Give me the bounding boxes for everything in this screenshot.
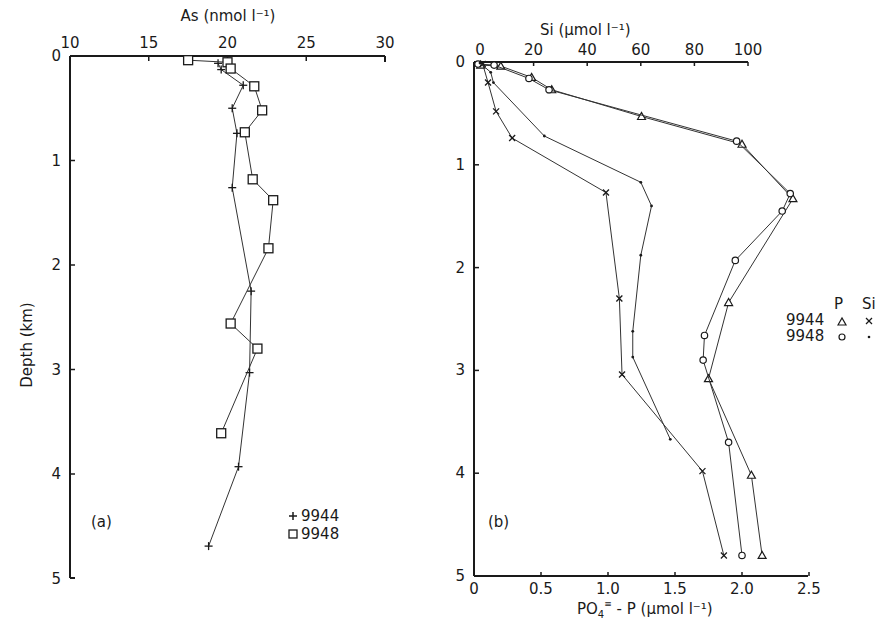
svg-text:20: 20	[524, 41, 543, 59]
svg-text:20: 20	[218, 34, 237, 52]
svg-text:10: 10	[60, 34, 79, 52]
svg-text:40: 40	[578, 41, 597, 59]
legend-b: P Si 9944 9948	[786, 295, 876, 345]
panel-b: Si (μmol l⁻¹) 020406080100 00.51.01.52.0…	[455, 21, 875, 620]
svg-text:1: 1	[455, 156, 465, 174]
legend-a-9948: 9948	[301, 525, 339, 543]
svg-text:2.0: 2.0	[730, 580, 754, 598]
svg-text:1: 1	[51, 152, 61, 170]
x-axis-title-as: As (nmol l⁻¹)	[181, 7, 276, 25]
x-marker-icon	[866, 318, 872, 324]
chart-canvas: As (nmol l⁻¹) 1015202530 012345 (a) Dept…	[0, 0, 894, 629]
plus-marker-icon	[289, 512, 297, 520]
svg-text:60: 60	[631, 41, 650, 59]
svg-text:1.5: 1.5	[663, 580, 687, 598]
y-ticks-a: 012345	[51, 47, 75, 588]
panel-label-a: (a)	[91, 513, 112, 531]
x-axis-title-po4: PO4≡ - P (μmol l⁻¹)	[577, 599, 713, 620]
svg-text:4: 4	[51, 465, 61, 483]
svg-text:15: 15	[139, 34, 158, 52]
legend-b-9948: 9948	[786, 327, 824, 345]
panel-a: As (nmol l⁻¹) 1015202530 012345 (a) Dept…	[18, 7, 395, 588]
svg-text:0: 0	[475, 41, 485, 59]
panel-label-b: (b)	[488, 513, 509, 531]
legend-header-si: Si	[862, 295, 876, 313]
y-ticks-b: 012345	[455, 53, 479, 585]
svg-text:2: 2	[455, 259, 465, 277]
x-axis-title-si: Si (μmol l⁻¹)	[540, 21, 631, 39]
square-marker-icon	[289, 530, 297, 538]
svg-text:0: 0	[51, 47, 61, 65]
svg-text:5: 5	[51, 570, 61, 588]
svg-text:100: 100	[734, 41, 763, 59]
y-axis-title: Depth (km)	[18, 302, 36, 387]
svg-text:80: 80	[685, 41, 704, 59]
svg-text:4: 4	[455, 464, 465, 482]
svg-text:1.0: 1.0	[596, 580, 620, 598]
series-b	[475, 61, 797, 559]
svg-text:2: 2	[51, 256, 61, 274]
svg-text:0.5: 0.5	[529, 580, 553, 598]
legend-a-9944: 9944	[301, 507, 339, 525]
legend-header-p: P	[834, 295, 843, 313]
triangle-marker-icon	[838, 318, 846, 325]
svg-text:3: 3	[51, 361, 61, 379]
svg-text:3: 3	[455, 361, 465, 379]
svg-text:0: 0	[469, 580, 479, 598]
circle-marker-icon	[839, 334, 845, 340]
svg-text:2.5: 2.5	[797, 580, 821, 598]
legend-a: 9944 9948	[289, 507, 339, 543]
svg-text:25: 25	[297, 34, 316, 52]
svg-text:30: 30	[375, 34, 394, 52]
series-a	[184, 56, 278, 550]
dot-marker-icon	[868, 336, 871, 339]
svg-text:5: 5	[455, 567, 465, 585]
svg-text:0: 0	[455, 53, 465, 71]
